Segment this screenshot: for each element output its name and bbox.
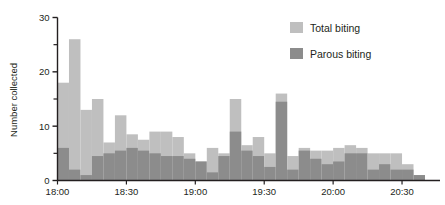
bar-group: [138, 140, 149, 181]
bar-segment-parous: [356, 153, 367, 180]
legend-entry: Total biting: [290, 22, 360, 34]
bar-group: [253, 137, 264, 180]
x-tick-label: 19:30: [252, 186, 276, 197]
bar-group: [103, 142, 114, 180]
bar-segment-parous: [103, 153, 114, 180]
bar-group: [69, 39, 80, 180]
x-tick-label: 18:30: [115, 186, 139, 197]
bar-segment-parous: [207, 172, 218, 180]
bar-group: [195, 161, 206, 180]
bar-group: [207, 148, 218, 181]
bar-segment-parous: [287, 170, 298, 181]
bar-segment-parous: [230, 132, 241, 181]
bar-segment-parous: [414, 175, 425, 180]
bar-segment-parous: [92, 156, 103, 180]
bar-segment-parous: [184, 159, 195, 181]
x-tick-label: 19:00: [183, 186, 207, 197]
legend-label: Total biting: [310, 22, 360, 34]
bar-segment-parous: [149, 153, 160, 180]
bar-group: [149, 132, 160, 181]
bar-group: [287, 156, 298, 180]
bar-segment-parous: [276, 102, 287, 181]
y-tick-label: 0: [44, 175, 49, 186]
bar-group: [345, 145, 356, 180]
x-tick-label: 20:00: [321, 186, 345, 197]
bar-group: [58, 83, 69, 181]
chart-figure: 0102030 18:0018:3019:0019:3020:0020:30 N…: [0, 0, 445, 205]
bar-group: [402, 164, 413, 180]
bar-segment-parous: [69, 170, 80, 181]
bar-group: [379, 153, 390, 180]
bar-segment-parous: [333, 161, 344, 180]
bar-segment-parous: [402, 170, 413, 181]
bar-segment-parous: [299, 151, 310, 181]
bar-group: [230, 99, 241, 181]
bar-group: [299, 148, 310, 181]
bar-segment-parous: [345, 153, 356, 180]
bar-segment-parous: [138, 151, 149, 181]
bar-segment-parous: [218, 156, 229, 180]
legend-swatch-total: [290, 22, 303, 33]
bar-group: [391, 153, 402, 180]
bar-segment-parous: [195, 161, 206, 180]
bar-segment-parous: [115, 151, 126, 181]
bar-group: [368, 153, 379, 180]
bar-group: [310, 151, 321, 181]
bar-segment-parous: [253, 156, 264, 180]
biting-activity-stacked-bar-chart: 0102030 18:0018:3019:0019:3020:0020:30 N…: [0, 0, 445, 205]
bar-segment-parous: [241, 151, 252, 181]
bar-segment-parous: [80, 175, 91, 180]
bar-segment-parous: [126, 148, 137, 181]
bar-segment-parous: [58, 148, 69, 181]
bar-segment-parous: [322, 164, 333, 180]
bar-group: [172, 137, 183, 180]
y-axis-title: Number collected: [8, 63, 19, 137]
legend-label: Parous biting: [310, 48, 371, 60]
bar-group: [264, 153, 275, 180]
bar-group: [80, 110, 91, 181]
bar-group: [241, 145, 252, 180]
bar-group: [218, 153, 229, 180]
bar-group: [115, 115, 126, 180]
bar-segment-parous: [172, 156, 183, 180]
y-axis-title-text: Number collected: [8, 63, 19, 137]
bar-group: [322, 151, 333, 181]
bar-segment-total: [69, 39, 80, 180]
bar-group: [333, 148, 344, 181]
bar-segment-parous: [161, 156, 172, 180]
y-tick-label: 30: [39, 12, 50, 23]
y-tick-label: 20: [39, 66, 50, 77]
y-tick-label: 10: [39, 121, 50, 132]
x-tick-label: 20:30: [390, 186, 414, 197]
x-tick-label: 18:00: [46, 186, 70, 197]
bar-segment-parous: [310, 159, 321, 181]
bar-segment-parous: [391, 170, 402, 181]
bar-group: [184, 153, 195, 180]
bar-segment-parous: [264, 167, 275, 181]
bar-group: [126, 134, 137, 180]
bar-group: [414, 175, 425, 180]
bar-group: [356, 148, 367, 181]
bar-segment-total: [80, 110, 91, 181]
bar-group: [161, 132, 172, 181]
bar-segment-parous: [379, 164, 390, 180]
legend-entry: Parous biting: [290, 48, 371, 60]
bar-group: [92, 99, 103, 181]
legend-swatch-parous: [290, 48, 303, 59]
bar-group: [276, 94, 287, 181]
bar-segment-parous: [368, 170, 379, 181]
